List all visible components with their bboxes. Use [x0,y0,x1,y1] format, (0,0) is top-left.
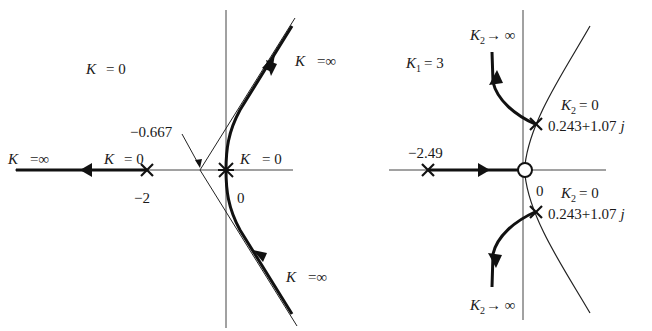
asymptote-lower [200,170,297,326]
arrow-left-icon [80,163,92,177]
label-k2-zero-upper: K2= 0 [560,97,599,116]
left-root-locus: K= 0 K=∞ K= 0 K= 0 K=∞ K=∞ −0.667 −2 0 [7,10,336,328]
label-k-inf-lower: K=∞ [285,269,327,285]
label-k2-zero-lower: K2= 0 [560,185,599,204]
arrow-down-right-icon [488,253,502,268]
label-k-inf-left: K=∞ [7,151,49,167]
label-k-zero-pole: K= 0 [103,151,144,167]
arrow-right-icon [478,163,490,177]
locus-upper-branch [226,26,292,170]
label-origin-tick: 0 [237,190,245,206]
label-k1: K1= 3 [405,55,444,74]
label-real-pole: −2.49 [408,145,443,161]
locus-upper-branch-right [492,52,535,124]
root-locus-figure: K= 0 K=∞ K= 0 K= 0 K=∞ K=∞ −0.667 −2 0 [0,0,652,331]
zero-circle-icon [518,163,532,177]
label-k2-inf-bottom: K2→ ∞ [469,297,515,316]
triple-pole-icon [218,161,234,179]
locus-lower-branch [226,170,292,314]
right-root-locus: K1= 3 K2→ ∞ K2→ ∞ K2= 0 0.243+1.07j K2= … [389,10,625,320]
locus-lower-branch-right [492,212,535,287]
centroid-arrow-icon [195,159,202,168]
label-centroid: −0.667 [130,124,173,140]
asymptote-upper [200,18,295,170]
label-k-zero-top: K= 0 [85,61,126,77]
label-pole-upper-value: 0.243+1.07j [548,118,625,134]
label-origin-tick-right: 0 [536,183,544,199]
label-pole-lower-value: 0.243+1.07j [548,206,625,222]
label-k2-inf-top: K2→ ∞ [469,27,515,46]
label-k-inf-upper: K=∞ [294,53,336,69]
arrow-up-right-icon [489,70,503,85]
label-pole-tick: −2 [134,190,150,206]
label-k-zero-origin: K= 0 [239,151,282,167]
